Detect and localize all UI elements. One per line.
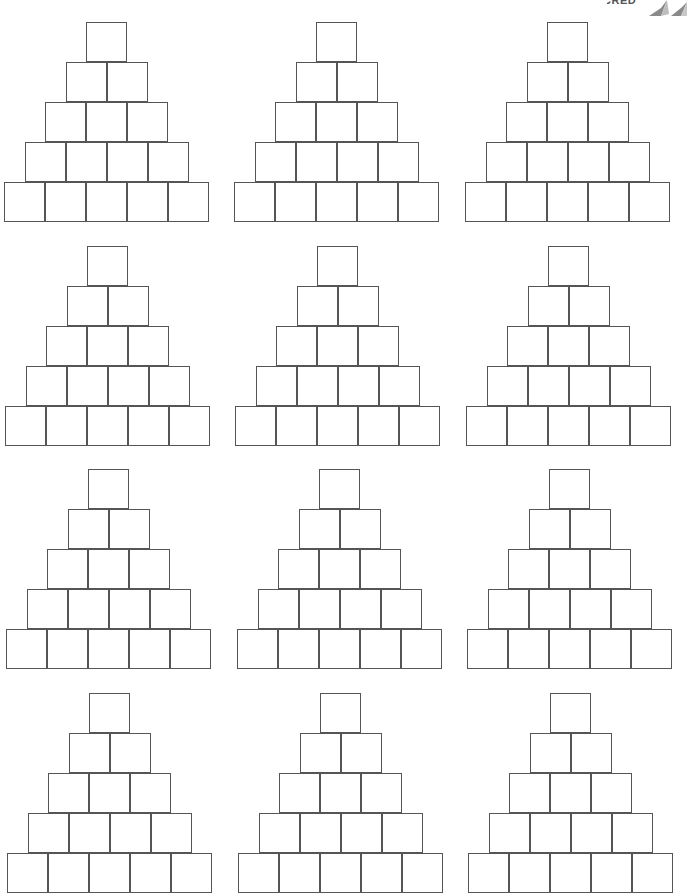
pyramid-cell[interactable] bbox=[5, 406, 46, 446]
pyramid-cell[interactable] bbox=[341, 733, 382, 773]
pyramid-cell[interactable] bbox=[401, 629, 442, 669]
pyramid-cell[interactable] bbox=[506, 182, 547, 222]
pyramid-cell[interactable] bbox=[631, 629, 672, 669]
pyramid-cell[interactable] bbox=[259, 813, 300, 853]
pyramid-cell[interactable] bbox=[299, 589, 340, 629]
pyramid-cell[interactable] bbox=[107, 142, 148, 182]
pyramid-cell[interactable] bbox=[357, 182, 398, 222]
pyramid-cell[interactable] bbox=[612, 813, 653, 853]
pyramid-cell[interactable] bbox=[549, 469, 590, 509]
pyramid-cell[interactable] bbox=[570, 589, 611, 629]
pyramid-cell[interactable] bbox=[66, 62, 107, 102]
pyramid-cell[interactable] bbox=[360, 549, 401, 589]
pyramid-cell[interactable] bbox=[127, 182, 168, 222]
pyramid-cell[interactable] bbox=[110, 733, 151, 773]
pyramid-cell[interactable] bbox=[320, 773, 361, 813]
pyramid-cell[interactable] bbox=[527, 62, 568, 102]
pyramid-cell[interactable] bbox=[316, 102, 357, 142]
pyramid-cell[interactable] bbox=[234, 182, 275, 222]
pyramid-cell[interactable] bbox=[258, 589, 299, 629]
pyramid-cell[interactable] bbox=[568, 62, 609, 102]
pyramid-cell[interactable] bbox=[550, 853, 591, 893]
pyramid-cell[interactable] bbox=[297, 366, 338, 406]
pyramid-cell[interactable] bbox=[489, 813, 530, 853]
pyramid-cell[interactable] bbox=[589, 406, 630, 446]
pyramid-cell[interactable] bbox=[27, 589, 68, 629]
pyramid-cell[interactable] bbox=[547, 182, 588, 222]
pyramid-cell[interactable] bbox=[530, 733, 571, 773]
pyramid-cell[interactable] bbox=[549, 629, 590, 669]
pyramid-cell[interactable] bbox=[88, 549, 129, 589]
pyramid-cell[interactable] bbox=[507, 326, 548, 366]
pyramid-cell[interactable] bbox=[550, 693, 591, 733]
pyramid-cell[interactable] bbox=[107, 62, 148, 102]
pyramid-cell[interactable] bbox=[48, 773, 89, 813]
pyramid-cell[interactable] bbox=[530, 813, 571, 853]
pyramid-cell[interactable] bbox=[4, 182, 45, 222]
pyramid-cell[interactable] bbox=[46, 326, 87, 366]
pyramid-cell[interactable] bbox=[170, 629, 211, 669]
pyramid-cell[interactable] bbox=[149, 366, 190, 406]
pyramid-cell[interactable] bbox=[89, 693, 130, 733]
pyramid-cell[interactable] bbox=[47, 549, 88, 589]
pyramid-cell[interactable] bbox=[87, 326, 128, 366]
pyramid-cell[interactable] bbox=[588, 102, 629, 142]
pyramid-cell[interactable] bbox=[148, 142, 189, 182]
pyramid-cell[interactable] bbox=[569, 286, 610, 326]
pyramid-cell[interactable] bbox=[340, 509, 381, 549]
pyramid-cell[interactable] bbox=[466, 406, 507, 446]
pyramid-cell[interactable] bbox=[316, 22, 357, 62]
pyramid-cell[interactable] bbox=[402, 853, 443, 893]
pyramid-cell[interactable] bbox=[45, 182, 86, 222]
pyramid-cell[interactable] bbox=[467, 629, 508, 669]
pyramid-cell[interactable] bbox=[129, 629, 170, 669]
pyramid-cell[interactable] bbox=[317, 246, 358, 286]
pyramid-cell[interactable] bbox=[130, 773, 171, 813]
pyramid-cell[interactable] bbox=[68, 509, 109, 549]
pyramid-cell[interactable] bbox=[528, 286, 569, 326]
pyramid-cell[interactable] bbox=[320, 853, 361, 893]
pyramid-cell[interactable] bbox=[299, 509, 340, 549]
pyramid-cell[interactable] bbox=[296, 62, 337, 102]
pyramid-cell[interactable] bbox=[276, 406, 317, 446]
pyramid-cell[interactable] bbox=[338, 286, 379, 326]
pyramid-cell[interactable] bbox=[150, 589, 191, 629]
pyramid-cell[interactable] bbox=[527, 142, 568, 182]
pyramid-cell[interactable] bbox=[317, 326, 358, 366]
pyramid-cell[interactable] bbox=[275, 182, 316, 222]
pyramid-cell[interactable] bbox=[238, 853, 279, 893]
pyramid-cell[interactable] bbox=[256, 366, 297, 406]
pyramid-cell[interactable] bbox=[508, 549, 549, 589]
pyramid-cell[interactable] bbox=[68, 589, 109, 629]
pyramid-cell[interactable] bbox=[109, 509, 150, 549]
pyramid-cell[interactable] bbox=[487, 366, 528, 406]
pyramid-cell[interactable] bbox=[568, 142, 609, 182]
pyramid-cell[interactable] bbox=[630, 406, 671, 446]
pyramid-cell[interactable] bbox=[358, 326, 399, 366]
pyramid-cell[interactable] bbox=[590, 549, 631, 589]
pyramid-cell[interactable] bbox=[378, 142, 419, 182]
pyramid-cell[interactable] bbox=[529, 589, 570, 629]
pyramid-cell[interactable] bbox=[571, 733, 612, 773]
pyramid-cell[interactable] bbox=[279, 853, 320, 893]
pyramid-cell[interactable] bbox=[109, 589, 150, 629]
pyramid-cell[interactable] bbox=[360, 629, 401, 669]
pyramid-cell[interactable] bbox=[486, 142, 527, 182]
pyramid-cell[interactable] bbox=[548, 246, 589, 286]
pyramid-cell[interactable] bbox=[509, 853, 550, 893]
pyramid-cell[interactable] bbox=[69, 733, 110, 773]
pyramid-cell[interactable] bbox=[130, 853, 171, 893]
pyramid-cell[interactable] bbox=[382, 813, 423, 853]
pyramid-cell[interactable] bbox=[86, 102, 127, 142]
pyramid-cell[interactable] bbox=[488, 589, 529, 629]
pyramid-cell[interactable] bbox=[591, 853, 632, 893]
pyramid-cell[interactable] bbox=[632, 853, 673, 893]
pyramid-cell[interactable] bbox=[47, 629, 88, 669]
pyramid-cell[interactable] bbox=[548, 406, 589, 446]
pyramid-cell[interactable] bbox=[611, 589, 652, 629]
pyramid-cell[interactable] bbox=[591, 773, 632, 813]
pyramid-cell[interactable] bbox=[276, 326, 317, 366]
pyramid-cell[interactable] bbox=[129, 549, 170, 589]
pyramid-cell[interactable] bbox=[128, 406, 169, 446]
pyramid-cell[interactable] bbox=[88, 629, 129, 669]
